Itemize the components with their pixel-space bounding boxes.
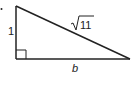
right-triangle-diagram: 1 11 b [0,0,132,87]
hypotenuse-radicand: 11 [80,19,91,31]
vertical-leg-label: 1 [8,25,14,37]
base-label: b [72,62,78,74]
right-angle-marker [16,50,26,59]
hypotenuse [16,6,130,59]
stray-dot [1,8,3,10]
hypotenuse-label: 11 [71,16,94,31]
